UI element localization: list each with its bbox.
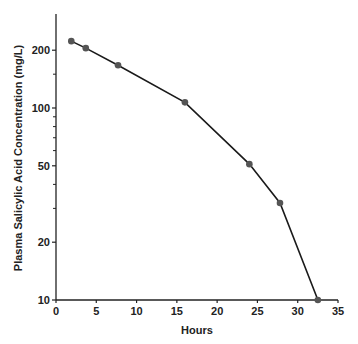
x-tick-label: 25	[251, 305, 263, 317]
y-tick-label: 10	[38, 294, 50, 306]
data-point	[83, 45, 90, 52]
x-tick-label: 20	[211, 305, 223, 317]
data-point	[115, 62, 122, 69]
x-tick-label: 0	[53, 305, 59, 317]
y-tick-label: 20	[38, 236, 50, 248]
axes: 05101520253035102050100200	[32, 14, 344, 317]
y-axis-title: Plasma Salicylic Acid Concentration (mg/…	[12, 44, 24, 271]
data-point	[277, 200, 284, 207]
y-tick-label: 100	[32, 102, 50, 114]
y-tick-label: 50	[38, 160, 50, 172]
x-axis-title: Hours	[181, 324, 213, 336]
data-point	[182, 99, 189, 106]
x-tick-label: 35	[332, 305, 344, 317]
x-tick-label: 30	[292, 305, 304, 317]
plot-area	[68, 38, 321, 303]
x-tick-label: 10	[130, 305, 142, 317]
x-tick-label: 15	[171, 305, 183, 317]
data-point	[246, 161, 253, 168]
series-line	[71, 41, 318, 300]
x-tick-label: 5	[93, 305, 99, 317]
chart: 05101520253035102050100200 Hours Plasma …	[0, 0, 358, 344]
data-point	[68, 38, 75, 45]
data-point	[315, 297, 322, 304]
y-tick-label: 200	[32, 44, 50, 56]
